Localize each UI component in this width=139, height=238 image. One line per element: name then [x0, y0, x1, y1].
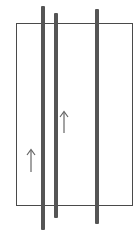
arrow-up-icon-svg: [25, 148, 37, 173]
channel-frame: [16, 23, 133, 206]
vertical-rod-1: [41, 6, 45, 230]
arrow-up-icon-svg: [58, 110, 70, 134]
vertical-rod-3: [95, 9, 99, 224]
up-arrow-icon: [25, 148, 37, 173]
up-arrow-icon: [58, 110, 70, 134]
